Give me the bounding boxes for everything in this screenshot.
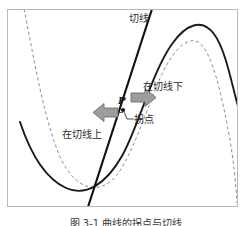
tangent-line-label: 切线	[129, 14, 149, 24]
inflection-point-diagram	[0, 0, 252, 226]
figure-caption: 图 3-1 曲线的拐点与切线	[0, 218, 252, 226]
point-p-label: P	[118, 96, 126, 106]
figure-container: P 切线 在切线下 在切线上 拐点 图 3-1 曲线的拐点与切线	[0, 0, 252, 226]
inflection-point-marker	[121, 108, 125, 112]
above-tangent-label: 在切线上	[62, 130, 102, 140]
inflection-point-label: 拐点	[134, 115, 154, 125]
below-tangent-label: 在切线下	[143, 82, 183, 92]
